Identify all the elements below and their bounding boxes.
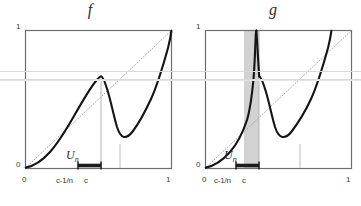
x-tick-0: 0 [202,175,206,184]
x-tick-0: 0 [22,175,26,184]
panel-f: f 1 0 0 c-1/n c 1 Un [0,0,180,206]
x-tick-c: c [84,176,88,185]
un-interval-label: Un [66,148,79,164]
un-subscript: n [75,155,79,164]
y-tick-1: 1 [16,22,20,31]
y-tick-1: 1 [196,22,200,31]
x-tick-c: c [242,176,246,185]
scan-artifact-line-top [0,71,361,72]
panel-f-plot [0,0,180,206]
x-tick-c-minus-1-over-n: c-1/n [214,176,231,185]
figure-container: f 1 0 0 c-1/n c 1 Un g [0,0,361,206]
panel-g: g 1 0 0 c-1/n c 1 Un [181,0,361,206]
x-tick-c-minus-1-over-n: c-1/n [56,176,73,185]
un-interval-label: Un [224,148,237,164]
un-base: U [66,148,75,162]
scan-artifact-line-bottom [0,80,361,81]
un-subscript: n [233,155,237,164]
identity-diagonal-line [26,31,172,169]
x-tick-1: 1 [166,175,170,184]
x-tick-1: 1 [346,175,350,184]
panel-g-plot [181,0,361,206]
y-tick-0: 0 [196,160,200,169]
y-tick-0: 0 [16,160,20,169]
un-base: U [224,148,233,162]
